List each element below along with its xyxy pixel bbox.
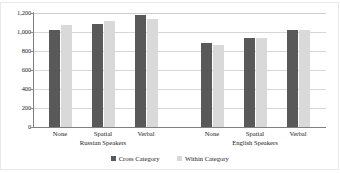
- bar-cross-category: [49, 30, 60, 127]
- x-axis-group-label: Russian Speakers: [58, 139, 148, 147]
- x-axis-line: [33, 127, 326, 128]
- x-axis-category-label: None: [45, 130, 75, 138]
- gridline: [34, 13, 326, 14]
- x-axis-category-label: Spatial: [88, 130, 118, 138]
- bar-cross-category: [135, 15, 146, 127]
- bar-cross-category: [244, 38, 255, 127]
- bar-within-category: [61, 25, 72, 127]
- bar-cross-category: [201, 43, 212, 127]
- plot-area: [34, 13, 326, 127]
- legend-label: Cross Category: [119, 155, 160, 162]
- y-axis-tick-label: 200: [3, 105, 31, 111]
- chart-legend: Cross Category Within Category: [0, 155, 340, 162]
- gridline: [34, 89, 326, 90]
- y-axis-tick-label: 600: [3, 67, 31, 73]
- x-axis-category-label: Verbal: [283, 130, 313, 138]
- bar-within-category: [147, 19, 158, 127]
- bar-within-category: [104, 21, 115, 127]
- legend-item-cross-category: Cross Category: [111, 155, 159, 162]
- legend-label: Within Category: [185, 155, 229, 162]
- bar-chart: 1,200 1,000 800 600 400 200 0: [0, 0, 340, 173]
- y-axis-tick-label: 1,200: [3, 10, 31, 16]
- x-axis-category-label: None: [197, 130, 227, 138]
- gridline: [34, 32, 326, 33]
- legend-swatch-icon: [177, 156, 182, 161]
- x-axis-category-label: Verbal: [131, 130, 161, 138]
- x-axis-category-label: Spatial: [240, 130, 270, 138]
- bar-within-category: [213, 45, 224, 127]
- bar-within-category: [256, 38, 267, 127]
- y-axis-tick-label: 1,000: [3, 29, 31, 35]
- y-axis-tick-label: 800: [3, 48, 31, 54]
- bar-cross-category: [92, 24, 103, 127]
- bar-within-category: [299, 30, 310, 127]
- x-axis-group-label: English Speakers: [210, 139, 300, 147]
- gridline: [34, 51, 326, 52]
- bar-cross-category: [287, 30, 298, 127]
- y-axis-labels: 1,200 1,000 800 600 400 200 0: [0, 0, 31, 173]
- legend-item-within-category: Within Category: [177, 155, 228, 162]
- y-axis-tick-label: 0: [3, 124, 31, 130]
- gridline: [34, 70, 326, 71]
- y-axis-tick-label: 400: [3, 86, 31, 92]
- legend-swatch-icon: [111, 156, 116, 161]
- gridline: [34, 108, 326, 109]
